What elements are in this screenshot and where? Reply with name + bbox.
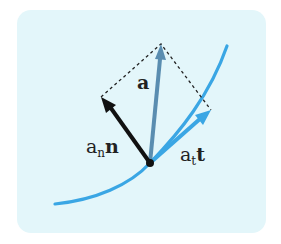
acceleration-diagram: a ann att xyxy=(0,0,281,244)
acceleration-arrowhead xyxy=(155,44,166,60)
label-a: a xyxy=(137,71,149,93)
origin-point xyxy=(146,159,154,167)
acceleration-vector xyxy=(150,55,160,163)
label-at-t: att xyxy=(180,143,205,168)
trajectory-curve xyxy=(55,46,227,204)
label-an-n: ann xyxy=(86,135,119,160)
